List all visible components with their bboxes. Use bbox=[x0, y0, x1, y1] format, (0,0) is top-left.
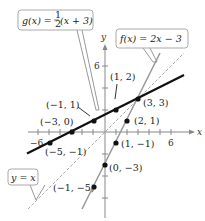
point-1-2 bbox=[113, 107, 118, 112]
label-neg5-neg1: (−5, −1) bbox=[45, 146, 86, 157]
label-neg1-neg5: (−1, −5) bbox=[53, 182, 94, 193]
x-axis-arrow-icon bbox=[189, 130, 195, 135]
label-3-3: (3, 3) bbox=[143, 97, 169, 108]
x-axis-label: x bbox=[197, 127, 202, 137]
function-inverse-graph: x y −6 6 6 g(x) = 1 2 (x + 3) f(x) = 2x … bbox=[0, 0, 205, 221]
point-0-neg3 bbox=[102, 162, 107, 167]
label-neg1-1: (−1, 1) bbox=[46, 99, 80, 110]
label-neg3-0: (−3, 0) bbox=[40, 116, 74, 127]
identity-line bbox=[28, 53, 184, 209]
point-neg5-neg1 bbox=[47, 140, 52, 145]
x-tick-label-6: 6 bbox=[168, 138, 174, 148]
identity-label: y = x bbox=[10, 172, 36, 183]
y-axis-arrow-icon bbox=[103, 44, 108, 50]
g-label: g(x) = bbox=[22, 15, 52, 26]
identity-callout-pointer bbox=[30, 185, 45, 200]
point-2-1 bbox=[124, 118, 129, 123]
label-2-1: (2, 1) bbox=[134, 115, 160, 126]
point-3-3 bbox=[135, 96, 140, 101]
g-label-rhs: (x + 3) bbox=[60, 15, 93, 26]
label-1-neg1: (1, −1) bbox=[121, 138, 155, 149]
point-1-neg1 bbox=[113, 140, 118, 145]
point-neg3-0 bbox=[69, 129, 74, 134]
point-neg1-1 bbox=[91, 118, 96, 123]
label-0-neg3: (0, −3) bbox=[109, 162, 143, 173]
label-1-2: (1, 2) bbox=[110, 71, 136, 82]
f-callout-pointer bbox=[143, 48, 157, 62]
y-tick-label-6: 6 bbox=[94, 61, 100, 71]
y-axis-label: y bbox=[100, 32, 107, 42]
f-label: f(x) = 2x − 3 bbox=[119, 33, 182, 44]
